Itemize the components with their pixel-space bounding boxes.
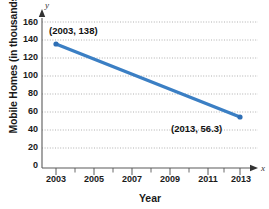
x-tick-label: 2007 <box>115 174 149 184</box>
x-tick-label: 2011 <box>191 174 225 184</box>
data-point-label-end: (2013, 56.3) <box>171 123 222 134</box>
line-chart: Mobile Homes (in thousands) 160 140 120 … <box>0 0 269 209</box>
x-axis-title: Year <box>42 192 258 204</box>
data-point-label-start: (2003, 138) <box>49 25 98 36</box>
x-axis-letter: x <box>261 163 265 173</box>
data-series-line <box>53 41 242 119</box>
x-axis <box>42 165 258 171</box>
x-tick-label: 2013 <box>224 174 258 184</box>
gridlines <box>42 22 258 148</box>
x-tick-label: 2009 <box>153 174 187 184</box>
y-axis <box>39 9 45 168</box>
data-point-end <box>237 114 242 119</box>
x-tick-label: 2003 <box>39 174 73 184</box>
x-axis-minor-ticks <box>75 168 224 173</box>
x-tick-label: 2005 <box>77 174 111 184</box>
data-point-start <box>53 41 58 46</box>
y-axis-letter: y <box>45 0 49 10</box>
